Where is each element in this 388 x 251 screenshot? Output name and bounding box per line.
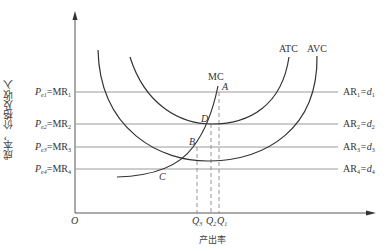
point-a-label: A (222, 82, 228, 92)
ar-label-1: AR1=d1 (343, 87, 375, 98)
atc-curve (130, 57, 289, 124)
atc-label: ATC (279, 44, 298, 54)
ar-label-3: AR3=d3 (343, 142, 375, 153)
avc-curve (98, 50, 317, 161)
q1-label: Q1 (217, 216, 227, 227)
x-axis-label: 产出率 (199, 233, 226, 246)
q2-label: Q2 (206, 216, 216, 227)
y-axis-label: 成本，价格及收入 (1, 80, 13, 160)
point-d-label: D (201, 114, 208, 124)
point-c-label: C (159, 172, 166, 182)
price-label-2: Pe2=MR2 (35, 119, 71, 130)
avc-label: AVC (307, 44, 327, 54)
point-b-label: B (189, 137, 195, 147)
mc-curve (117, 86, 218, 177)
price-label-4: Pe4=MR4 (35, 164, 71, 175)
q3-label: Q3 (192, 216, 202, 227)
ar-label-4: AR4=d4 (343, 164, 375, 175)
price-label-3: Pe3=MR3 (35, 142, 71, 153)
origin-label: O (71, 216, 78, 226)
y-axis-arrow-icon (73, 11, 78, 20)
price-label-1: Pe1=MR1 (35, 87, 71, 98)
x-axis-arrow-icon (366, 211, 376, 216)
ar-label-2: AR2=d2 (343, 119, 375, 130)
